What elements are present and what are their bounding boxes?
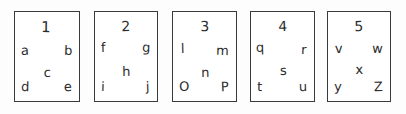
card-3[interactable]: 3 l m n O P bbox=[172, 11, 237, 102]
card-2-letter-bottom-right: j bbox=[146, 81, 150, 94]
card-4-number: 4 bbox=[278, 20, 288, 34]
card-4[interactable]: 4 q r s t u bbox=[250, 11, 315, 102]
card-5-letter-left: v bbox=[335, 43, 343, 56]
card-3-letter-right: m bbox=[216, 45, 229, 58]
sketch-canvas: 1 a b c d e 2 f g h i j 3 l m n O P 4 q … bbox=[0, 0, 406, 114]
card-5-number: 5 bbox=[354, 20, 364, 34]
card-5-letter-bottom-right: Z bbox=[374, 81, 384, 94]
card-4-letter-center: s bbox=[279, 65, 286, 78]
card-1-number: 1 bbox=[41, 20, 51, 35]
card-5-letter-bottom-left: y bbox=[334, 81, 342, 94]
card-4-letter-left: q bbox=[256, 42, 265, 55]
card-4-letter-bottom-right: u bbox=[298, 81, 307, 94]
card-1-letter-left: a bbox=[21, 45, 30, 58]
card-2-letter-center: h bbox=[122, 66, 131, 79]
card-1-letter-bottom-right: e bbox=[64, 81, 73, 94]
card-2[interactable]: 2 f g h i j bbox=[94, 11, 158, 102]
card-3-letter-bottom-right: P bbox=[221, 81, 229, 94]
card-2-number: 2 bbox=[121, 20, 131, 34]
card-2-letter-right: g bbox=[141, 42, 150, 55]
card-5-letter-center: x bbox=[355, 64, 363, 77]
card-1-letter-center: c bbox=[44, 67, 52, 80]
card-2-letter-bottom-left: i bbox=[101, 81, 105, 94]
card-1-letter-right: b bbox=[63, 45, 72, 58]
card-3-number: 3 bbox=[200, 20, 210, 34]
card-1[interactable]: 1 a b c d e bbox=[14, 11, 80, 102]
card-1-letter-bottom-left: d bbox=[21, 81, 30, 94]
card-5[interactable]: 5 v w x y Z bbox=[327, 11, 391, 102]
card-2-letter-left: f bbox=[101, 42, 106, 55]
card-5-letter-right: w bbox=[372, 43, 383, 56]
card-3-letter-bottom-left: O bbox=[179, 81, 190, 94]
card-4-letter-right: r bbox=[301, 44, 307, 57]
card-3-letter-left: l bbox=[181, 43, 185, 56]
card-4-letter-bottom-left: t bbox=[257, 81, 263, 94]
card-3-letter-center: n bbox=[201, 67, 210, 80]
